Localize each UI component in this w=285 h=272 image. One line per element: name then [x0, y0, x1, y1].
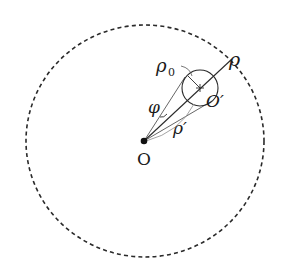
label-rho-prime: ρ′: [172, 118, 187, 138]
diagram-svg: ρ ρ 0 φ ρ′ O O′: [0, 0, 285, 272]
diagram-canvas: ρ ρ 0 φ ρ′ O O′: [0, 0, 285, 272]
origin-dot: [141, 138, 148, 145]
label-phi: φ: [148, 97, 160, 117]
label-rho0: ρ: [155, 55, 167, 76]
rho0-radius-line: [188, 76, 200, 88]
label-origin: O: [137, 149, 151, 169]
label-o-prime: O′: [206, 91, 224, 111]
label-rho: ρ: [228, 48, 241, 70]
label-rho0-subscript: 0: [168, 66, 175, 79]
rho0-leader: [181, 66, 192, 76]
